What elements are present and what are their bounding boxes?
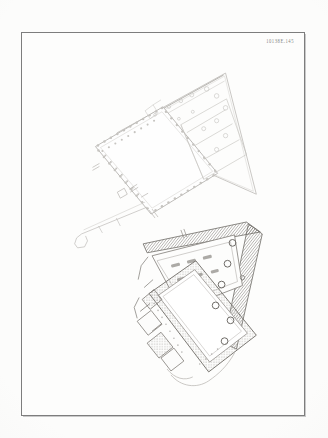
scanned-page: 10138E.145 xyxy=(0,0,328,438)
lower-site-plan xyxy=(22,33,304,415)
lower-plan-group xyxy=(134,222,262,386)
plate-frame: 10138E.145 xyxy=(21,32,305,416)
drawing-area xyxy=(22,33,304,415)
